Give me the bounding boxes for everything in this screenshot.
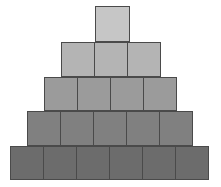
block (95, 6, 130, 42)
block (126, 111, 160, 146)
block (61, 42, 95, 77)
block (159, 111, 193, 146)
block (60, 111, 94, 146)
block-row-3 (44, 77, 176, 111)
block (93, 111, 127, 146)
block (175, 146, 209, 180)
block (10, 146, 44, 180)
block (109, 146, 143, 180)
block (142, 146, 176, 180)
block (43, 146, 77, 180)
block (127, 42, 161, 77)
block (27, 111, 61, 146)
block-row-2 (61, 42, 160, 77)
block (76, 146, 110, 180)
block (77, 77, 111, 111)
block-row-4 (27, 111, 192, 146)
block (143, 77, 177, 111)
block-row-5 (10, 146, 208, 180)
block (110, 77, 144, 111)
block-pyramid-figure (0, 0, 221, 187)
block (44, 77, 78, 111)
block (94, 42, 128, 77)
block-row-1 (95, 6, 129, 42)
